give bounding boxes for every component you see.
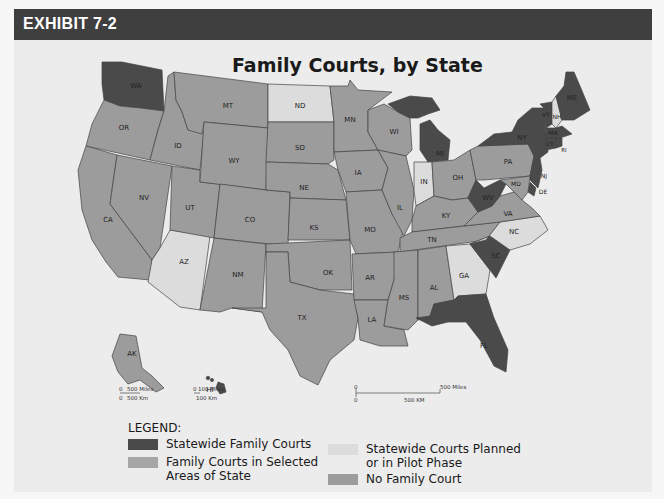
svg-text:0: 0: [119, 386, 123, 392]
legend-label-statewide: Statewide Family Courts: [166, 437, 311, 451]
svg-text:TN: TN: [426, 236, 437, 244]
svg-text:500 KM: 500 KM: [404, 397, 425, 403]
svg-text:0: 0: [193, 386, 197, 392]
svg-text:UT: UT: [185, 204, 195, 212]
svg-text:RI: RI: [561, 147, 567, 153]
svg-text:NV: NV: [139, 194, 149, 202]
svg-text:0: 0: [119, 395, 123, 401]
svg-text:MD: MD: [511, 180, 521, 187]
svg-text:500 Km: 500 Km: [127, 395, 148, 401]
legend-item-planned-pilot: Statewide Courts Planned or in Pilot Pha…: [328, 442, 528, 470]
svg-text:MN: MN: [344, 116, 355, 124]
legend-item-none: No Family Court: [328, 472, 462, 486]
svg-text:OK: OK: [323, 269, 334, 277]
svg-text:WV: WV: [482, 194, 494, 202]
svg-text:100 Km: 100 Km: [196, 395, 217, 401]
svg-text:AR: AR: [365, 274, 375, 282]
svg-text:LA: LA: [368, 316, 377, 324]
svg-text:AK: AK: [127, 350, 137, 358]
state-ak[interactable]: [112, 334, 164, 392]
legend-item-statewide: Statewide Family Courts: [128, 437, 311, 451]
legend: LEGEND: Statewide Family Courts Family C…: [128, 421, 648, 491]
svg-text:ND: ND: [295, 102, 306, 110]
svg-text:IA: IA: [355, 169, 362, 177]
svg-text:ID: ID: [174, 142, 181, 150]
svg-text:0: 0: [354, 384, 358, 390]
svg-text:OH: OH: [453, 174, 464, 182]
svg-text:ME: ME: [567, 94, 577, 102]
svg-text:KY: KY: [442, 212, 451, 220]
state-sd[interactable]: [266, 122, 334, 164]
map-title: Family Courts, by State: [232, 54, 483, 76]
svg-text:IL: IL: [397, 204, 403, 212]
svg-text:500 Miles: 500 Miles: [440, 384, 466, 390]
legend-item-selected-areas: Family Courts in Selected Areas of State: [128, 455, 328, 483]
svg-text:KS: KS: [309, 224, 319, 232]
legend-swatch-none: [328, 474, 358, 485]
svg-text:0: 0: [354, 397, 358, 403]
legend-label-selected-areas: Family Courts in Selected Areas of State: [166, 455, 328, 483]
state-hi-island[interactable]: [206, 376, 210, 380]
svg-text:MS: MS: [399, 294, 410, 302]
svg-text:WA: WA: [130, 82, 142, 90]
svg-text:500 Miles: 500 Miles: [127, 386, 153, 392]
legend-label-none: No Family Court: [366, 472, 462, 486]
legend-swatch-planned-pilot: [328, 444, 358, 455]
svg-text:FL: FL: [480, 342, 488, 350]
legend-swatch-selected-areas: [128, 457, 158, 468]
svg-text:PA: PA: [504, 158, 513, 166]
state-wy[interactable]: [200, 122, 268, 190]
state-pa[interactable]: [470, 144, 534, 180]
svg-text:IN: IN: [420, 178, 427, 186]
svg-text:GA: GA: [459, 272, 469, 280]
svg-text:WY: WY: [228, 157, 240, 165]
svg-text:DE: DE: [539, 188, 548, 195]
svg-text:MI: MI: [436, 150, 444, 158]
svg-text:MT: MT: [223, 102, 234, 110]
svg-text:MO: MO: [364, 226, 376, 234]
svg-text:NH: NH: [553, 113, 562, 120]
svg-text:NE: NE: [299, 184, 309, 192]
alaska-scale-bar: 0 500 Miles 0 500 Km: [119, 386, 153, 401]
svg-text:CT: CT: [546, 141, 554, 147]
state-co[interactable]: [214, 184, 290, 246]
svg-text:OR: OR: [119, 124, 130, 132]
svg-text:CA: CA: [103, 216, 113, 224]
state-ks[interactable]: [288, 198, 350, 240]
svg-text:NY: NY: [517, 134, 527, 142]
svg-text:WI: WI: [390, 128, 399, 136]
svg-text:AL: AL: [430, 284, 439, 292]
legend-label-planned-pilot: Statewide Courts Planned or in Pilot Pha…: [366, 442, 528, 470]
svg-text:100 Miles: 100 Miles: [198, 386, 224, 392]
svg-text:NJ: NJ: [541, 172, 547, 180]
legend-title: LEGEND:: [128, 421, 181, 435]
svg-text:SC: SC: [491, 252, 500, 260]
svg-text:VT: VT: [542, 111, 550, 118]
svg-text:CO: CO: [245, 216, 256, 224]
svg-text:TX: TX: [296, 314, 306, 322]
mainland-scale-bar: 0 500 Miles 0 500 KM: [354, 384, 466, 403]
svg-text:SD: SD: [295, 144, 305, 152]
svg-text:AZ: AZ: [179, 258, 189, 266]
svg-text:VA: VA: [503, 210, 512, 218]
legend-swatch-statewide: [128, 439, 158, 450]
svg-text:MA: MA: [548, 129, 558, 136]
state-hi-island2[interactable]: [210, 378, 213, 381]
svg-text:NM: NM: [232, 271, 243, 279]
svg-text:NC: NC: [509, 228, 519, 236]
